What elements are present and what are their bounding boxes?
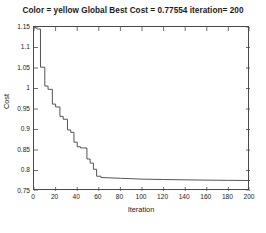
x-tick-label: 100 [135,193,146,200]
y-tick-label: 1.1 [21,43,30,50]
x-axis-tick-labels: 020406080100120140160180200 [0,193,266,205]
x-tick-label: 80 [116,193,123,200]
y-tick-label: 1.15 [17,23,30,30]
y-tick-label: 1 [26,84,30,91]
plot-area [33,26,249,190]
x-tick-label: 140 [179,193,190,200]
y-tick-label: 0.9 [21,125,30,132]
x-tick-marks [34,27,250,191]
x-tick-label: 120 [157,193,168,200]
chart-figure: Color = yellow Global Best Cost = 0.7755… [0,0,266,233]
x-tick-label: 200 [243,193,254,200]
y-axis-label: Cost [2,80,11,124]
x-tick-label: 40 [73,193,80,200]
y-tick-label: 0.8 [21,166,30,173]
x-axis-label: Iteration [33,205,249,214]
y-tick-marks [34,27,250,191]
x-tick-label: 180 [222,193,233,200]
x-tick-label: 160 [200,193,211,200]
y-tick-label: 0.85 [17,146,30,153]
x-tick-label: 20 [51,193,58,200]
y-tick-label: 0.95 [17,105,30,112]
cost-line-series [34,28,250,181]
x-tick-label: 60 [94,193,101,200]
chart-title: Color = yellow Global Best Cost = 0.7755… [0,6,266,15]
y-tick-label: 1.05 [17,64,30,71]
plot-svg [34,27,250,191]
x-tick-label: 0 [31,193,35,200]
